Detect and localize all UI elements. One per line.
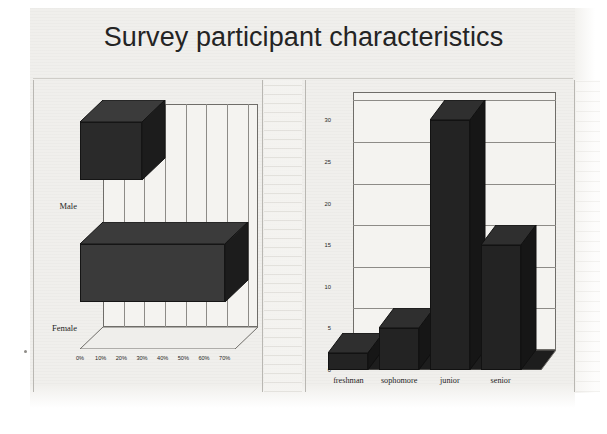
- bar-front-face: [481, 245, 521, 370]
- y-tick-15: 15: [313, 242, 331, 248]
- gender-chart-plot-area: [80, 104, 258, 349]
- page-title: Survey participant characteristics: [0, 22, 607, 53]
- x-tick-20: 20%: [116, 355, 127, 361]
- bar-front-face: [80, 122, 142, 180]
- bar-front-face: [80, 244, 225, 302]
- chart-left-border-right: [262, 80, 263, 392]
- x-tick-30: 30%: [136, 355, 147, 361]
- bar-front-face: [328, 353, 368, 370]
- gender-chart-floor: [80, 327, 258, 349]
- class-year-chart: 051015202530freshmansophomorejuniorsenio…: [305, 80, 575, 392]
- scan-speck: [24, 350, 27, 353]
- x-tick-40: 40%: [157, 355, 168, 361]
- x-tick-50: 50%: [178, 355, 189, 361]
- x-tick-10: 10%: [95, 355, 106, 361]
- x-tick-60: 60%: [198, 355, 209, 361]
- y-tick-25: 25: [313, 159, 331, 165]
- chart-right-border: [305, 80, 306, 392]
- chart-left-border: [33, 80, 34, 392]
- category-label-female: Female: [33, 323, 77, 333]
- bar-side-face: [225, 222, 250, 304]
- scan-artifact-lines-right: [576, 80, 600, 392]
- y-tick-10: 10: [313, 284, 331, 290]
- bar-side-face: [142, 100, 167, 182]
- bar-front-face: [379, 328, 419, 370]
- scan-artifact-lines: [264, 80, 302, 392]
- title-divider: [33, 78, 573, 79]
- category-label-freshman: freshman: [333, 376, 363, 385]
- scanned-page: Survey participant characteristics MaleF…: [0, 0, 607, 434]
- category-label-sophomore: sophomore: [381, 376, 417, 385]
- y-tick-0: 0: [313, 367, 331, 373]
- y-tick-5: 5: [313, 325, 331, 331]
- y-tick-30: 30: [313, 117, 331, 123]
- x-tick-70: 70%: [219, 355, 230, 361]
- y-tick-20: 20: [313, 201, 331, 207]
- x-tick-0: 0%: [76, 355, 84, 361]
- class-year-chart-plot-area: [338, 92, 556, 370]
- category-label-male: Male: [33, 201, 77, 211]
- gender-chart: MaleFemale0%10%20%30%40%50%60%70%: [33, 80, 263, 392]
- category-label-senior: senior: [491, 376, 511, 385]
- category-label-junior: junior: [440, 376, 460, 385]
- bar-side-face: [521, 225, 538, 372]
- bar-front-face: [430, 120, 470, 370]
- chart-right-border-right: [574, 80, 575, 392]
